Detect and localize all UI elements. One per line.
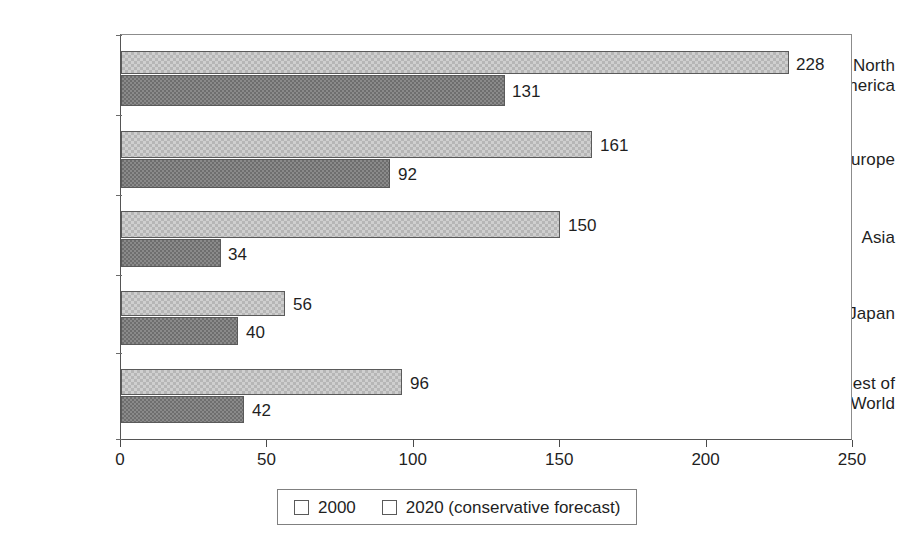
x-axis-tick [413,440,414,447]
legend-item-2020[interactable]: 2020 (conservative forecast) [382,499,621,516]
bar-2020-asia [121,211,560,238]
x-axis-tick [706,440,707,447]
x-axis-tick-label: 200 [691,450,719,469]
x-axis-tick [852,440,853,447]
bar-value-2020-rest-of-world: 96 [410,375,429,392]
plot-area: 228 131 161 92 150 34 56 40 96 42 [120,34,852,440]
y-axis-tick [116,275,122,276]
bar-value-2020-europe: 161 [600,137,628,154]
y-axis-tick [116,35,122,36]
legend-item-2000[interactable]: 2000 [294,499,356,516]
x-axis-tick-label: 0 [115,450,124,469]
legend-swatch-2020-icon [382,500,397,515]
x-axis-tick-label: 150 [545,450,573,469]
bar-value-2000-japan: 40 [246,324,265,341]
bar-value-2020-asia: 150 [568,217,596,234]
y-axis-tick [116,195,122,196]
bar-value-2020-japan: 56 [293,296,312,313]
bar-2000-asia [121,239,221,267]
y-axis-tick [116,115,122,116]
bar-value-2020-north-america: 228 [796,56,824,73]
bar-2020-japan [121,291,285,316]
bar-2000-north-america [121,75,505,106]
legend-label-2000: 2000 [318,499,356,516]
y-axis-tick [116,353,122,354]
x-axis-tick [559,440,560,447]
x-axis-tick-label: 250 [838,450,866,469]
bar-value-2000-asia: 34 [228,246,247,263]
bar-value-2000-north-america: 131 [512,83,540,100]
bar-value-2000-rest-of-world: 42 [252,402,271,419]
bar-2000-rest-of-world [121,396,244,423]
legend-swatch-2000-icon [294,500,309,515]
x-axis-tick [266,440,267,447]
bar-value-2000-europe: 92 [398,166,417,183]
bar-2020-europe [121,131,592,158]
chart-legend: 2000 2020 (conservative forecast) [277,489,637,525]
bar-2020-rest-of-world [121,369,402,395]
bar-2020-north-america [121,51,789,74]
legend-label-2020: 2020 (conservative forecast) [406,499,621,516]
bar-2000-europe [121,159,390,188]
x-axis-tick-label: 100 [399,450,427,469]
bar-2000-japan [121,317,238,345]
x-axis-tick [120,440,121,447]
bar-chart: North America Europe Asia Japan Rest of … [0,0,903,556]
x-axis-tick-label: 50 [257,450,276,469]
x-axis: 0 50 100 150 200 250 [120,440,852,480]
